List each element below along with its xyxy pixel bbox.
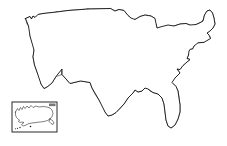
aleutian-island-3 (15, 128, 16, 129)
kodiak-island (30, 126, 32, 128)
aleutian-island-2 (17, 128, 18, 129)
alaska-inset-corner-mark (49, 104, 56, 107)
us-outline-map-figure: Blank outline map of the United States B… (0, 0, 227, 146)
aleutian-island-1 (19, 127, 20, 128)
us-map-svg (0, 0, 227, 146)
